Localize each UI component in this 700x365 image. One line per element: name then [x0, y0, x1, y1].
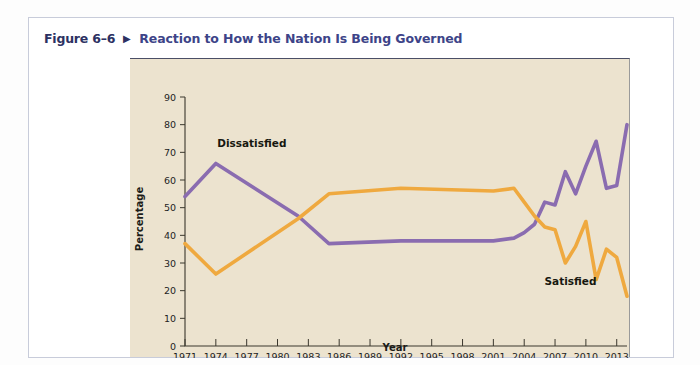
x-tick-label: 1983 — [296, 351, 320, 358]
y-tick-label: 60 — [164, 175, 176, 186]
x-tick-label: 2007 — [543, 351, 567, 358]
y-tick-label: 30 — [164, 258, 176, 269]
y-tick-label: 80 — [164, 119, 176, 130]
y-tick-label: 50 — [164, 202, 176, 213]
y-tick-label: 20 — [164, 285, 176, 296]
x-tick-label: 1989 — [358, 351, 382, 358]
x-tick-label: 1986 — [327, 351, 351, 358]
triangle-right-icon: ▶ — [123, 33, 131, 44]
chart-panel: 0102030405060708090 19711974197719801983… — [130, 58, 630, 357]
figure-card: Figure 6–6 ▶ Reaction to How the Nation … — [28, 17, 674, 358]
x-tick-label: 2013 — [605, 351, 629, 358]
y-tick-label: 70 — [164, 147, 176, 158]
y-axis-ticks: 0102030405060708090 — [164, 92, 185, 352]
series-annotation-satisfied: Satisfied — [544, 275, 596, 287]
y-tick-label: 40 — [164, 230, 176, 241]
axes-group — [185, 97, 627, 346]
x-tick-label: 2004 — [512, 351, 536, 358]
figure-number: Figure 6–6 — [44, 31, 115, 46]
x-tick-label: 1974 — [204, 351, 228, 358]
x-tick-label: 1995 — [420, 351, 444, 358]
figure-title: Reaction to How the Nation Is Being Gove… — [139, 31, 462, 46]
x-tick-label: 2001 — [481, 351, 505, 358]
data-series-group — [185, 125, 627, 297]
x-tick-label: 1998 — [450, 351, 474, 358]
x-tick-label: 2010 — [574, 351, 598, 358]
axis-lines — [185, 97, 627, 346]
x-axis-title: Year — [382, 342, 408, 353]
y-axis-title: Percentage — [134, 187, 145, 252]
line-chart: 0102030405060708090 19711974197719801983… — [130, 59, 630, 358]
figure-header: Figure 6–6 ▶ Reaction to How the Nation … — [44, 31, 462, 46]
y-tick-label: 0 — [170, 341, 176, 352]
series-annotation-dissatisfied: Dissatisfied — [217, 137, 286, 149]
x-tick-label: 1971 — [173, 351, 197, 358]
page-root: Figure 6–6 ▶ Reaction to How the Nation … — [0, 0, 700, 365]
x-tick-label: 1977 — [235, 351, 259, 358]
x-tick-label: 1980 — [265, 351, 289, 358]
y-tick-label: 90 — [164, 92, 176, 103]
y-tick-label: 10 — [164, 313, 176, 324]
